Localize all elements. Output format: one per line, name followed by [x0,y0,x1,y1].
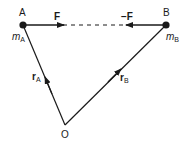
mass-a-label: mA [12,31,25,43]
origin-label: O [61,129,69,140]
mass-point-b [162,21,169,28]
point-a-label: A [19,7,26,18]
vector-ra-subscript: A [36,76,41,83]
mass-b-label: mB [166,31,179,43]
point-b-label: B [163,7,170,18]
vector-ra-label: rA [32,71,41,83]
vector-line-ra [23,25,65,125]
vector-rb-label: rB [120,72,129,84]
mass-a-subscript: A [20,36,25,43]
force-neg-f-label: −F [121,11,133,22]
force-diagram: A B O mA mB F −F rA rB [0,0,188,141]
mass-b-subscript: B [174,36,179,43]
vector-arrow-ra [45,77,52,94]
vector-rb-subscript: B [124,77,129,84]
mass-point-a [19,21,26,28]
force-f-label: F [54,11,60,22]
